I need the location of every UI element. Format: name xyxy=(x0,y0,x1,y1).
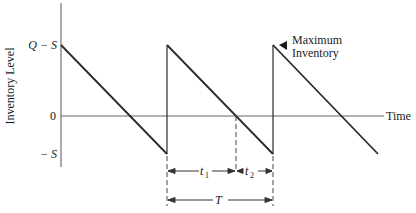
y-axis-label: Inventory Level xyxy=(3,47,17,125)
y-tick-zero: 0 xyxy=(50,109,56,123)
inventory-sawtooth xyxy=(61,45,378,154)
maximum-inventory-pointer-icon xyxy=(279,41,287,50)
t1-label: t xyxy=(200,164,204,178)
annotation-line-1: Maximum xyxy=(292,33,343,47)
y-tick-minus-s: − S xyxy=(40,147,57,161)
x-axis-label: Time xyxy=(386,109,411,123)
t1-subscript: 1 xyxy=(205,171,209,180)
t1-t2-dimension xyxy=(168,169,272,174)
inventory-diagram: Q − S 0 − S Inventory Level Time Maximum… xyxy=(0,0,416,213)
t2-subscript: 2 xyxy=(250,171,254,180)
annotation-line-2: Inventory xyxy=(292,46,339,60)
T-label: T xyxy=(215,193,223,207)
y-tick-q-minus-s: Q − S xyxy=(28,38,57,52)
t2-label: t xyxy=(245,164,249,178)
